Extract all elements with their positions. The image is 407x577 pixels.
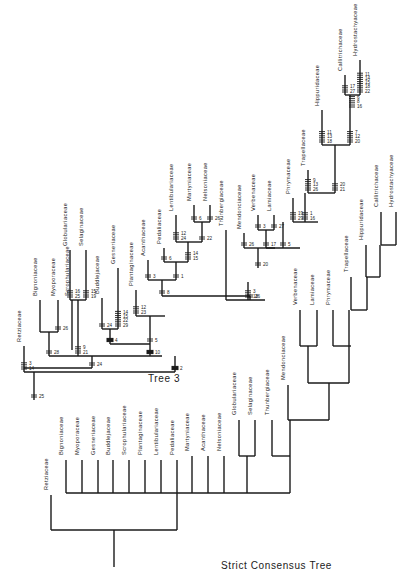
taxon-label: Nelsoniaceae <box>216 412 222 451</box>
character-number: 5 <box>288 242 291 247</box>
character-mark: 14 <box>115 310 129 315</box>
character-number: 16 <box>75 289 81 294</box>
character-mark: 16 <box>349 104 363 109</box>
taxon-label: Nelsoniaceae <box>202 162 208 201</box>
taxon-label: Thunbergiaceae <box>264 369 270 415</box>
character-number: 20 <box>340 182 346 187</box>
character-mark: 12 <box>347 134 361 139</box>
character-number: 4 <box>115 338 118 343</box>
taxon-label: Bignoniaceae <box>32 257 38 296</box>
taxon-label: Pedaliaceae <box>169 420 175 455</box>
taxon-label: Hippuridaceae <box>314 65 320 106</box>
character-mark: 26 <box>241 242 255 247</box>
taxon-label: Buddlejaceae <box>94 255 100 294</box>
character-number: 14 <box>123 310 129 315</box>
character-number: 3 <box>29 361 32 366</box>
character-number: 6 <box>357 95 360 100</box>
character-number: 25 <box>39 394 45 399</box>
character-mark: 25 <box>31 394 45 399</box>
character-mark: 17 <box>263 242 277 247</box>
character-mark: 3 <box>21 361 32 366</box>
character-number: 26 <box>249 242 255 247</box>
taxon-label: Lentibulariaceae <box>153 408 159 455</box>
character-mark: 5 <box>147 338 158 343</box>
taxon-label: Plantaginaceae <box>137 411 143 455</box>
character-number: 11 <box>365 72 370 77</box>
taxon-label: Selaginaceae <box>78 207 84 246</box>
character-number: 3 <box>253 289 256 294</box>
character-mark: 1 <box>302 211 313 216</box>
taxon-label: Myoporaceae <box>74 417 80 455</box>
character-mark: 12 <box>133 305 147 310</box>
character-solid-bar <box>172 366 178 369</box>
character-mark: 6 <box>161 256 172 261</box>
taxon-label: Gesneriaceae <box>110 224 116 264</box>
character-mark: 13 <box>305 182 319 187</box>
character-number: 26 <box>63 326 69 331</box>
character-mark: 3 <box>145 274 156 279</box>
character-mark: 11 <box>357 72 370 77</box>
character-number: 24 <box>97 362 103 367</box>
taxon-label: Plantaginaceae <box>128 242 134 286</box>
taxon-label: Pedaliaceae <box>156 209 162 244</box>
cladogram-canvas: Retziaceae143ScrophulariaceaeBignoniacea… <box>0 0 407 577</box>
character-mark: 9 <box>305 178 316 183</box>
character-mark: 8 <box>159 290 170 295</box>
taxon-label: Phrymaceae <box>285 159 291 194</box>
taxon-label: Mendonciaceae <box>280 335 286 380</box>
character-number: 6 <box>199 216 202 221</box>
character-mark: 10 <box>147 350 161 355</box>
character-number: 11 <box>327 130 332 135</box>
taxon-label: Lamiaceae <box>309 274 315 305</box>
character-mark: 3 <box>255 224 266 229</box>
character-number: 17 <box>271 242 277 247</box>
taxon-label: Trapellaceae <box>343 235 349 272</box>
character-number: 27 <box>279 224 285 229</box>
character-mark: 5 <box>280 242 291 247</box>
character-number: 1 <box>181 274 184 279</box>
taxon-label: Gesneriaceae <box>90 415 96 455</box>
character-number: 14 <box>193 251 199 256</box>
taxon-label: Callitrichaceae <box>337 28 343 71</box>
character-mark: 2 <box>172 366 183 371</box>
character-number: 22 <box>207 236 213 241</box>
character-mark: 12 <box>173 231 187 236</box>
character-number: 10 <box>155 350 161 355</box>
taxon-label: Selaginaceae <box>247 376 253 415</box>
taxon-label: Buddlejaceae <box>105 416 111 455</box>
taxon-label: Lamiaceae <box>266 180 272 211</box>
character-number: 28 <box>54 350 60 355</box>
character-number: 12 <box>181 231 187 236</box>
character-number: 7 <box>355 130 358 135</box>
taxon-label: Hydrostachyaceae <box>352 3 358 56</box>
character-number: 1 <box>310 211 313 216</box>
character-mark: 6 <box>191 216 202 221</box>
taxon-label: Globulariaceae <box>231 372 237 415</box>
taxon-label: Thunbergiaceae <box>218 180 224 226</box>
taxon-label: Trapellaceae <box>300 129 306 166</box>
character-number: 2 <box>180 366 183 371</box>
character-mark: 9 <box>75 345 86 350</box>
taxon-label: Acanthaceae <box>140 219 146 256</box>
character-mark: 20 <box>255 262 269 267</box>
character-number: 20 <box>263 262 269 267</box>
phylogeny-figure: Retziaceae143ScrophulariaceaeBignoniacea… <box>0 0 407 577</box>
taxon-label: Phrymaceae <box>325 270 331 305</box>
taxon-label: Verbenaceae <box>292 268 298 305</box>
character-solid-bar <box>107 338 113 341</box>
character-mark: 22 <box>199 236 213 241</box>
character-number: 3 <box>263 224 266 229</box>
taxon-label: Retziaceae <box>16 310 22 342</box>
consensus-label: Strict Consensus Tree <box>221 560 332 571</box>
character-mark: 24 <box>89 362 103 367</box>
character-mark: 7 <box>347 130 358 135</box>
character-mark: 16 <box>302 216 316 221</box>
taxon-label: Hippuridaceae <box>358 199 364 240</box>
taxon-label: Callitrichaceae <box>373 164 379 207</box>
character-number: 6 <box>169 256 172 261</box>
taxon-label: Bignoniaceae <box>58 416 64 455</box>
character-mark: 21 <box>75 350 89 355</box>
taxon-label: Hydrostachyaceae <box>388 154 394 207</box>
character-number: 9 <box>83 345 86 350</box>
character-number: 8 <box>167 290 170 295</box>
